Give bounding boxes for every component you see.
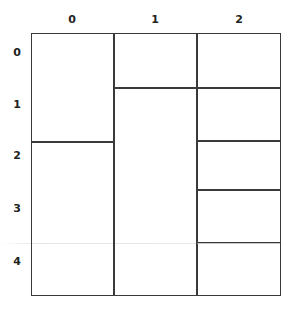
row-label-4: 4 — [13, 256, 21, 267]
column-label-1: 1 — [151, 14, 159, 25]
cell-col0-row2-4 — [31, 142, 114, 296]
cell-col2-row0 — [197, 33, 281, 88]
cell-col0-row0-1 — [31, 33, 114, 142]
row-label-0: 0 — [13, 47, 21, 58]
column-label-2: 2 — [235, 14, 243, 25]
cell-col2-row2 — [197, 141, 281, 190]
column-label-0: 0 — [68, 14, 76, 25]
cell-col2-row4 — [197, 243, 281, 296]
cell-col2-row3 — [197, 190, 281, 243]
cell-col2-row1 — [197, 88, 281, 141]
cell-col1-row0 — [114, 33, 197, 88]
row-label-2: 2 — [13, 150, 21, 161]
row-label-3: 3 — [13, 203, 21, 214]
cell-col1-row1-4 — [114, 88, 197, 296]
row-label-1: 1 — [13, 99, 21, 110]
mosaic-plot-figure: 0 1 2 0 1 2 3 4 — [0, 0, 302, 313]
